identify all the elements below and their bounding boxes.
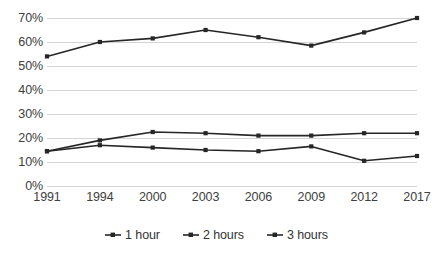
data-point-marker [309, 144, 313, 148]
line-chart: 0%10%20%30%40%50%60%70% 1991199420002003… [0, 0, 432, 253]
data-point-marker [203, 131, 207, 135]
data-point-marker [98, 40, 102, 44]
data-point-marker [415, 154, 419, 158]
data-point-marker [45, 149, 49, 153]
legend-label: 2 hours [203, 228, 244, 242]
data-point-marker [362, 30, 366, 34]
x-axis-tick-label: 1991 [33, 190, 60, 204]
y-axis-tick-label: 20% [18, 131, 43, 145]
data-point-marker [98, 143, 102, 147]
data-point-marker [151, 130, 155, 134]
y-axis-tick-label: 30% [18, 107, 43, 121]
y-axis-tick-label: 40% [18, 83, 43, 97]
y-axis-tick-label: 50% [18, 59, 43, 73]
y-axis-tick-label: 60% [18, 35, 43, 49]
plot-area [47, 18, 417, 186]
x-axis-tick-labels: 19911994200020032006200920122017 [47, 190, 417, 210]
data-point-marker [203, 148, 207, 152]
series-line [47, 18, 417, 56]
data-point-marker [256, 134, 260, 138]
data-point-marker [151, 146, 155, 150]
data-point-marker [203, 28, 207, 32]
x-axis-tick-label: 2012 [350, 190, 377, 204]
x-axis-tick-label: 1994 [86, 190, 113, 204]
data-point-marker [256, 149, 260, 153]
legend-label: 3 hours [287, 228, 328, 242]
x-axis-tick-label: 2009 [298, 190, 325, 204]
data-point-marker [309, 44, 313, 48]
gridline [47, 186, 417, 187]
series-line [47, 132, 417, 151]
x-axis-tick-label: 2017 [403, 190, 430, 204]
chart-legend: 1 hour2 hours3 hours [0, 228, 432, 242]
data-point-marker [309, 134, 313, 138]
legend-entry-3[interactable]: 3 hours [266, 228, 328, 242]
legend-label: 1 hour [125, 228, 160, 242]
legend-entry-1[interactable]: 1 hour [104, 228, 160, 242]
series-layer [47, 18, 417, 186]
data-point-marker [362, 159, 366, 163]
y-axis-tick-label: 70% [18, 11, 43, 25]
x-axis-tick-label: 2006 [245, 190, 272, 204]
y-axis-tick-label: 10% [18, 155, 43, 169]
x-axis-tick-label: 2003 [192, 190, 219, 204]
data-point-marker [151, 36, 155, 40]
series-2 [45, 143, 419, 163]
data-point-marker [256, 35, 260, 39]
data-point-marker [362, 131, 366, 135]
data-point-marker [98, 138, 102, 142]
data-point-marker [415, 131, 419, 135]
data-point-marker [45, 54, 49, 58]
line-with-dot-marker [266, 230, 284, 240]
series-3 [45, 130, 419, 153]
line-with-dot-marker [104, 230, 122, 240]
y-axis-tick-labels: 0%10%20%30%40%50%60%70% [0, 18, 43, 186]
data-point-marker [415, 16, 419, 20]
legend-entry-2[interactable]: 2 hours [182, 228, 244, 242]
x-axis-tick-label: 2000 [139, 190, 166, 204]
series-1 [45, 16, 419, 59]
series-line [47, 145, 417, 161]
line-with-dot-marker [182, 230, 200, 240]
